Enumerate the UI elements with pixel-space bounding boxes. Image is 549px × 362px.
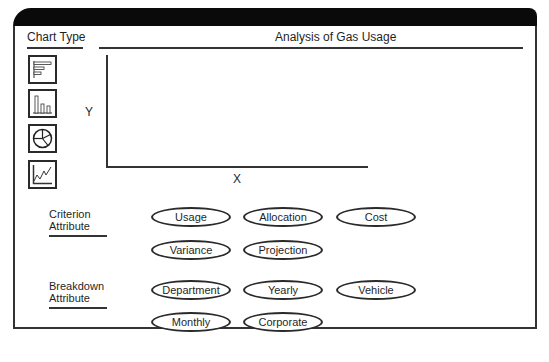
page-title: Analysis of Gas Usage <box>275 31 396 44</box>
horizontal-bar-chart-icon <box>32 59 53 80</box>
breakdown-vehicle-button[interactable]: Vehicle <box>336 280 416 300</box>
chart-type-line[interactable] <box>28 160 57 189</box>
window-title-bar <box>13 8 537 26</box>
criterion-allocation-button[interactable]: Allocation <box>243 207 323 227</box>
criterion-underline <box>49 235 107 237</box>
breakdown-label-line2: Attribute <box>49 292 90 305</box>
y-axis-label: Y <box>85 106 93 119</box>
y-axis <box>106 55 108 168</box>
chart-type-label: Chart Type <box>27 31 85 44</box>
criterion-variance-button[interactable]: Variance <box>151 240 231 260</box>
line-chart-icon <box>32 164 53 185</box>
criterion-cost-button[interactable]: Cost <box>336 207 416 227</box>
title-underline <box>99 47 523 49</box>
x-axis <box>106 166 368 168</box>
breakdown-department-button[interactable]: Department <box>151 280 231 300</box>
criterion-projection-button[interactable]: Projection <box>243 240 323 260</box>
chart-type-underline <box>27 47 83 49</box>
breakdown-underline <box>49 307 107 309</box>
chart-type-horizontal-bar[interactable] <box>28 55 57 84</box>
vertical-bar-chart-icon <box>32 93 53 114</box>
chart-type-pie[interactable] <box>28 124 57 153</box>
criterion-usage-button[interactable]: Usage <box>151 207 231 227</box>
criterion-label-line2: Attribute <box>49 220 90 233</box>
pie-chart-icon <box>32 128 53 149</box>
breakdown-yearly-button[interactable]: Yearly <box>243 280 323 300</box>
chart-type-vertical-bar[interactable] <box>28 89 57 118</box>
breakdown-corporate-button[interactable]: Corporate <box>243 312 323 332</box>
x-axis-label: X <box>233 173 241 186</box>
breakdown-monthly-button[interactable]: Monthly <box>151 312 231 332</box>
